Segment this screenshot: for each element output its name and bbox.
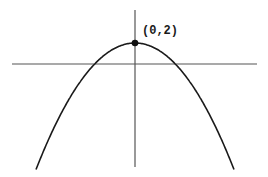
parabola-chart — [0, 0, 268, 177]
vertex-point — [132, 40, 139, 47]
vertex-label: (0,2) — [142, 24, 178, 38]
